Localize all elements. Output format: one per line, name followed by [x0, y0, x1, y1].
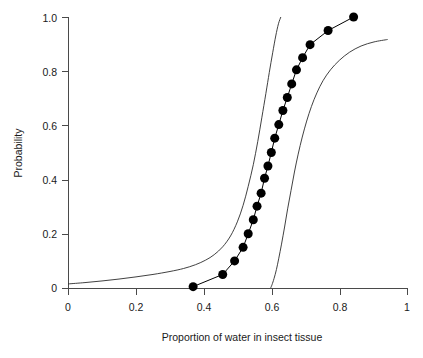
- data-point: [218, 270, 227, 279]
- y-tick-label-4: 0.8: [42, 66, 57, 78]
- data-point: [249, 215, 258, 224]
- data-point: [292, 65, 301, 74]
- data-point: [263, 162, 272, 171]
- probability-dose-response-chart: 0 0.2 0.4 0.6 0.8 1.0 0 0.2 0.4 0.6 0.8 …: [0, 0, 423, 358]
- data-point: [298, 53, 307, 62]
- y-tick-label-5: 1.0: [42, 12, 57, 24]
- y-tick-label-0: 0: [51, 282, 57, 294]
- data-point: [230, 256, 239, 265]
- data-point: [283, 93, 292, 102]
- plot-background: [0, 0, 423, 358]
- y-axis-title: Probability: [12, 128, 24, 178]
- data-point: [239, 243, 248, 252]
- x-tick-label-2: 0.4: [197, 301, 212, 313]
- data-point: [260, 174, 269, 183]
- data-point: [189, 282, 198, 291]
- y-tick-label-3: 0.6: [42, 120, 57, 132]
- data-point: [349, 13, 358, 22]
- data-point: [253, 202, 262, 211]
- data-point: [244, 229, 253, 238]
- data-point: [257, 189, 266, 198]
- data-point: [267, 148, 276, 157]
- x-tick-label-5: 1: [404, 301, 410, 313]
- x-axis-title: Proportion of water in insect tissue: [162, 331, 323, 343]
- x-tick-label-3: 0.6: [265, 301, 280, 313]
- x-tick-label-4: 0.8: [333, 301, 348, 313]
- y-tick-label-2: 0.4: [42, 174, 57, 186]
- data-point: [274, 120, 283, 129]
- data-point: [306, 40, 315, 49]
- y-tick-label-1: 0.2: [42, 228, 57, 240]
- data-point: [324, 26, 333, 35]
- data-point: [278, 106, 287, 115]
- data-point: [287, 79, 296, 88]
- x-tick-label-1: 0.2: [129, 301, 144, 313]
- chart-page: 0 0.2 0.4 0.6 0.8 1.0 0 0.2 0.4 0.6 0.8 …: [0, 0, 423, 358]
- data-point: [270, 134, 279, 143]
- x-tick-label-0: 0: [65, 301, 71, 313]
